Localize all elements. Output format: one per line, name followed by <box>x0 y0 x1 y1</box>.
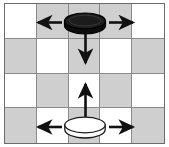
light-checker-piece <box>63 116 107 138</box>
checkers-move-diagram: A 5-column by 4-row checkerboard with tw… <box>0 0 169 147</box>
pieces-layer <box>5 4 166 145</box>
board-frame <box>4 3 165 144</box>
dark-checker-piece <box>63 12 107 34</box>
